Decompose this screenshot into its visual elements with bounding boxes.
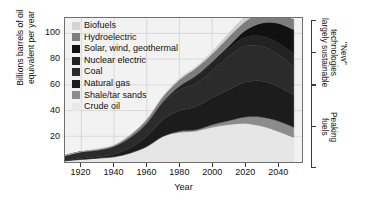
legend-swatch-icon <box>72 103 80 111</box>
legend-item-label: Nuclear electric <box>84 55 146 67</box>
legend-item: Natural gas <box>72 78 178 90</box>
x-tick-label: 2040 <box>258 167 298 177</box>
x-tick-mark <box>80 163 81 167</box>
x-tick-mark <box>245 163 246 167</box>
x-tick-mark <box>212 163 213 167</box>
legend-item: Shale/tar sands <box>72 90 178 102</box>
legend-item: Nuclear electric <box>72 55 178 67</box>
legend-item-label: Shale/tar sands <box>84 90 147 102</box>
x-tick-mark <box>146 163 147 167</box>
legend-swatch-icon <box>72 80 80 88</box>
bracket-upper-label: "New" technologies largely sustainable <box>319 18 348 88</box>
legend-item: Solar, wind, geothermal <box>72 43 178 55</box>
chart-figure: Billions barrels of oil equivalent per y… <box>0 0 375 219</box>
legend-item: Coal <box>72 66 178 78</box>
legend-item-label: Coal <box>84 66 103 78</box>
legend-item: Biofuels <box>72 20 178 32</box>
legend-swatch-icon <box>72 57 80 65</box>
legend-item: Hydroelectric <box>72 32 178 44</box>
legend-item: Crude oil <box>72 101 178 113</box>
legend-swatch-icon <box>72 91 80 99</box>
legend-swatch-icon <box>72 45 80 53</box>
legend-item-label: Hydroelectric <box>84 32 137 44</box>
legend-swatch-icon <box>72 68 80 76</box>
legend-swatch-icon <box>72 22 80 30</box>
chart-legend: BiofuelsHydroelectricSolar, wind, geothe… <box>72 20 178 113</box>
legend-item-label: Solar, wind, geothermal <box>84 43 178 55</box>
legend-item-label: Crude oil <box>84 101 120 113</box>
legend-item-label: Natural gas <box>84 78 130 90</box>
x-tick-mark <box>113 163 114 167</box>
x-tick-mark <box>179 163 180 167</box>
x-tick-mark <box>278 163 279 167</box>
legend-item-label: Biofuels <box>84 20 116 32</box>
bracket-lower-label: Peaking fuels <box>319 93 338 161</box>
legend-swatch-icon <box>72 33 80 41</box>
x-axis-title: Year <box>64 182 303 192</box>
